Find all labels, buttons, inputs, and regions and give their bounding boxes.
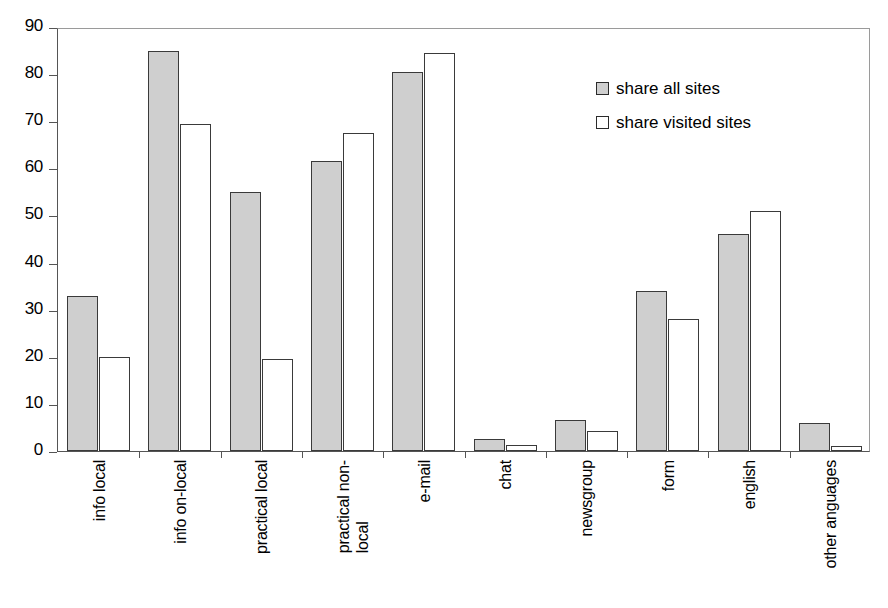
bar <box>750 211 781 451</box>
y-axis-tick-mark <box>49 311 57 312</box>
y-axis-tick-label: 90 <box>25 17 43 34</box>
y-axis-tick-label: 20 <box>25 347 43 364</box>
y-axis-tick-label: 10 <box>25 394 43 411</box>
x-axis-label-line: english <box>741 460 758 509</box>
x-axis-label-line: chat <box>497 460 514 489</box>
x-axis-label: info on-local <box>171 460 190 544</box>
x-axis-label-line: newsgroup <box>578 460 595 536</box>
bar <box>555 420 586 451</box>
x-axis-tick-mark <box>546 451 547 458</box>
x-axis-label: other anguages <box>821 460 840 568</box>
x-axis-label-line: other anguages <box>822 460 839 568</box>
bar <box>99 357 130 451</box>
y-axis-tick-label: 60 <box>25 158 43 175</box>
y-axis-tick-mark <box>49 358 57 359</box>
y-axis-tick-label: 70 <box>25 111 43 128</box>
bar <box>392 72 423 451</box>
x-axis-label-line: form <box>660 460 677 491</box>
bar <box>343 133 374 451</box>
bar-group <box>221 27 302 451</box>
x-axis-label-line: info on-local <box>172 460 189 544</box>
bar <box>506 445 537 451</box>
bar <box>262 359 293 451</box>
x-axis-label-line: info local <box>91 460 108 521</box>
x-axis-label: newsgroup <box>577 460 596 536</box>
x-axis-label-line: practical non- <box>335 460 352 553</box>
bar <box>180 124 211 451</box>
bar <box>311 161 342 451</box>
x-axis-label: form <box>659 460 678 491</box>
legend-label-share-visited-sites: share visited sites <box>616 113 751 132</box>
x-axis-label: practical non-local <box>334 460 372 553</box>
y-axis-tick-label: 40 <box>25 253 43 270</box>
y-axis-tick-mark <box>49 452 57 453</box>
bar <box>718 234 749 451</box>
legend-item-share-visited-sites: share visited sites <box>596 112 786 132</box>
y-axis-tick-label: 80 <box>25 64 43 81</box>
bar <box>230 192 261 451</box>
bar <box>799 423 830 451</box>
y-axis-tick-mark <box>49 28 57 29</box>
x-axis-label-line: local <box>353 460 372 553</box>
y-axis-tick-mark <box>49 405 57 406</box>
x-axis-label-line: e-mail <box>416 460 433 502</box>
y-axis-tick-mark <box>49 216 57 217</box>
x-axis-tick-mark <box>302 451 303 458</box>
x-axis-tick-mark <box>627 451 628 458</box>
legend-label-share-all-sites: share all sites <box>616 79 720 98</box>
bar-group <box>465 27 546 451</box>
bar-group <box>139 27 220 451</box>
x-axis-tick-mark <box>139 451 140 458</box>
bar <box>424 53 455 451</box>
y-axis-tick-label: 30 <box>25 300 43 317</box>
bar <box>668 319 699 451</box>
legend-swatch-share-all-sites <box>596 82 609 95</box>
y-axis: 0102030405060708090 <box>0 20 57 460</box>
x-axis-tick-mark <box>383 451 384 458</box>
bar-group <box>790 27 871 451</box>
x-axis-label-line: practical local <box>253 460 270 554</box>
bar-chart: 0102030405060708090 info localinfo on-lo… <box>0 0 888 608</box>
y-axis-tick-mark <box>49 122 57 123</box>
x-axis-label: e-mail <box>415 460 434 502</box>
x-axis-label: chat <box>496 460 515 489</box>
y-axis-tick-label: 50 <box>25 205 43 222</box>
bar-group <box>302 27 383 451</box>
y-axis-tick-mark <box>49 264 57 265</box>
bar <box>587 431 618 451</box>
bar <box>67 296 98 451</box>
bar <box>148 51 179 451</box>
bar-group <box>383 27 464 451</box>
x-axis-tick-mark <box>221 451 222 458</box>
bar <box>636 291 667 451</box>
x-axis-label: info local <box>90 460 109 521</box>
y-axis-tick-label: 0 <box>34 441 43 458</box>
x-axis-label: english <box>740 460 759 509</box>
x-axis-tick-mark <box>708 451 709 458</box>
y-axis-tick-mark <box>49 75 57 76</box>
y-axis-tick-mark <box>49 169 57 170</box>
legend-item-share-all-sites: share all sites <box>596 78 786 98</box>
bar-group <box>58 27 139 451</box>
x-axis-tick-mark <box>790 451 791 458</box>
x-axis-tick-mark <box>465 451 466 458</box>
legend-swatch-share-visited-sites <box>596 116 609 129</box>
x-axis-labels: info localinfo on-localpractical localpr… <box>57 460 870 608</box>
chart-legend: share all sites share visited sites <box>596 78 786 146</box>
x-axis-label: practical local <box>252 460 271 554</box>
bar <box>474 439 505 451</box>
bar <box>831 446 862 451</box>
